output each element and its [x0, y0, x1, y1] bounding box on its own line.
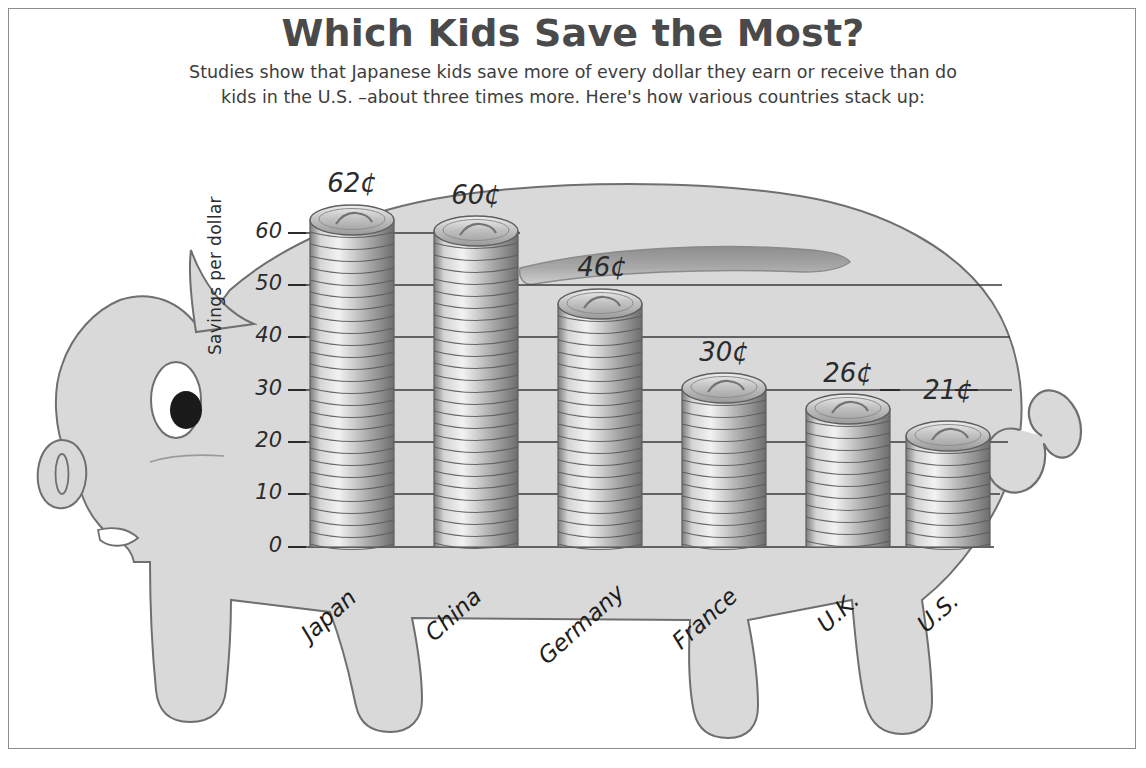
- value-label-france: 30¢: [679, 337, 769, 367]
- page-subtitle: Studies show that Japanese kids save mor…: [103, 60, 1043, 110]
- ytick-label-50: 50: [238, 271, 282, 295]
- page-title: Which Kids Save the Most?: [0, 14, 1146, 54]
- header: Which Kids Save the Most? Studies show t…: [0, 14, 1146, 110]
- ytick-label-0: 0: [238, 533, 282, 557]
- value-label-germany: 46¢: [557, 252, 647, 282]
- ytick-label-20: 20: [238, 428, 282, 452]
- infographic-root: Which Kids Save the Most? Studies show t…: [0, 0, 1146, 768]
- ytick-label-30: 30: [238, 376, 282, 400]
- ytick-label-10: 10: [238, 480, 282, 504]
- y-axis-label: Savings per dollar: [205, 155, 225, 355]
- subtitle-line-2: kids in the U.S. –about three times more…: [103, 85, 1043, 110]
- value-label-uk: 26¢: [803, 358, 893, 388]
- value-label-china: 60¢: [431, 180, 521, 210]
- subtitle-line-1: Studies show that Japanese kids save mor…: [103, 60, 1043, 85]
- ytick-label-60: 60: [238, 219, 282, 243]
- value-label-japan: 62¢: [307, 168, 397, 198]
- ytick-label-40: 40: [238, 323, 282, 347]
- value-label-us: 21¢: [903, 375, 993, 405]
